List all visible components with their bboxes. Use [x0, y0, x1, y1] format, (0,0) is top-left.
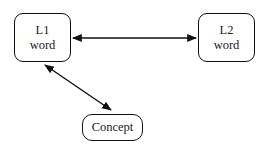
concept-node: Concept: [82, 114, 143, 141]
l1-word-node: L1 word: [14, 13, 71, 62]
l1-node-label-line2: word: [30, 38, 56, 53]
l1-node-label-line1: L1: [36, 23, 50, 38]
edge-l1-concept: [45, 65, 111, 110]
l2-node-label-line1: L2: [220, 23, 234, 38]
l2-node-label-line2: word: [214, 38, 240, 53]
l2-word-node: L2 word: [198, 13, 255, 62]
concept-node-label: Concept: [92, 120, 134, 135]
